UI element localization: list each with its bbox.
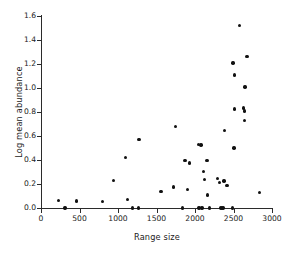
- y-tick-label: 0.4: [14, 156, 36, 164]
- data-point: [231, 61, 234, 64]
- y-tick-label: 1.4: [14, 36, 36, 44]
- y-tick-label-text: 0.2: [18, 180, 36, 188]
- data-point: [101, 200, 104, 203]
- x-tick-label: 2000: [178, 214, 212, 223]
- y-tick-label-text: 1.0: [18, 84, 36, 92]
- data-point: [200, 206, 203, 209]
- data-point: [223, 129, 226, 132]
- data-point: [232, 146, 235, 149]
- y-tick-label-text: 0.4: [18, 156, 36, 164]
- data-point: [188, 161, 191, 164]
- data-point: [112, 179, 115, 182]
- plot-area: [41, 16, 272, 208]
- x-tick-mark: [234, 209, 235, 213]
- y-tick-label: 1.6: [14, 12, 36, 20]
- data-point: [233, 73, 236, 76]
- data-point: [238, 24, 241, 27]
- y-tick-label-text: 0.0: [18, 204, 36, 212]
- data-point: [124, 156, 127, 159]
- data-point: [233, 107, 236, 110]
- y-tick-label-text: 1.2: [18, 60, 36, 68]
- data-point: [208, 206, 211, 209]
- y-tick-label: 1.2: [14, 60, 36, 68]
- data-point: [172, 185, 175, 188]
- data-point: [203, 178, 206, 181]
- y-tick-label: 0.8: [14, 108, 36, 116]
- x-tick-mark: [195, 209, 196, 213]
- data-point: [186, 188, 189, 191]
- y-tick-label-text: 0.8: [18, 108, 36, 116]
- data-point: [245, 55, 248, 58]
- data-point: [225, 184, 228, 187]
- x-tick-mark: [80, 209, 81, 213]
- data-point: [159, 190, 162, 193]
- x-tick-label: 2500: [217, 214, 251, 223]
- data-point: [202, 170, 205, 173]
- data-point: [222, 179, 225, 182]
- data-point: [243, 109, 246, 112]
- y-tick-label: 0.2: [14, 180, 36, 188]
- data-point: [216, 177, 219, 180]
- data-point: [174, 125, 177, 128]
- data-point: [181, 206, 184, 209]
- data-point: [243, 119, 246, 122]
- y-tick-label: 0.6: [14, 132, 36, 140]
- x-tick-label: 1500: [140, 214, 174, 223]
- data-point: [75, 199, 78, 202]
- x-tick-mark: [41, 209, 42, 213]
- y-tick-label-text: 0.6: [18, 132, 36, 140]
- x-axis-label: Range size: [41, 232, 273, 242]
- data-point: [199, 143, 202, 146]
- y-tick-label-text: 1.4: [18, 36, 36, 44]
- y-tick-label: 1.0: [14, 84, 36, 92]
- data-point: [218, 181, 221, 184]
- data-point: [137, 206, 140, 209]
- y-tick-label-text: 1.6: [18, 12, 36, 20]
- scatter-plot-figure: Log mean abundance 0.00.20.40.60.81.01.2…: [0, 0, 289, 254]
- data-point: [243, 85, 246, 88]
- data-point: [206, 193, 209, 196]
- x-tick-label: 0: [24, 214, 58, 223]
- x-tick-mark: [118, 209, 119, 213]
- x-tick-label: 3000: [255, 214, 289, 223]
- data-point: [57, 199, 60, 202]
- data-point: [205, 159, 208, 162]
- x-tick-label: 500: [63, 214, 97, 223]
- data-point: [131, 206, 134, 209]
- data-point: [183, 159, 186, 162]
- x-tick-mark: [157, 209, 158, 213]
- y-tick-label: 0.0: [14, 204, 36, 212]
- data-point: [221, 206, 224, 209]
- data-point: [258, 191, 261, 194]
- data-point: [126, 198, 129, 201]
- x-tick-label: 1000: [101, 214, 135, 223]
- data-point: [137, 138, 140, 141]
- data-point: [63, 206, 66, 209]
- x-tick-mark: [272, 209, 273, 213]
